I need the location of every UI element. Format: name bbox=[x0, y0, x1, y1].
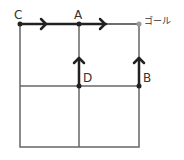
node-d bbox=[77, 84, 82, 89]
path-arrows bbox=[20, 19, 144, 86]
grid-diagram: C A ゴール D B bbox=[0, 0, 184, 160]
node-a bbox=[77, 22, 82, 27]
node-goal bbox=[137, 22, 142, 27]
label-c: C bbox=[14, 8, 22, 22]
label-d: D bbox=[83, 71, 92, 85]
label-b: B bbox=[143, 71, 151, 85]
node-c bbox=[18, 22, 23, 27]
label-a: A bbox=[74, 8, 83, 22]
label-goal: ゴール bbox=[144, 15, 171, 26]
node-b bbox=[137, 84, 142, 89]
